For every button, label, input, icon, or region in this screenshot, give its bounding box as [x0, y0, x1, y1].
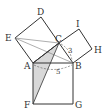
label-h: H	[94, 45, 102, 55]
label-d: D	[37, 7, 44, 17]
measure-bc: 3	[68, 47, 72, 55]
label-f: F	[24, 100, 30, 110]
square-bcih	[59, 29, 92, 63]
label-c: C	[55, 34, 62, 44]
label-e: E	[5, 33, 12, 43]
label-b: B	[75, 61, 82, 71]
geometry-figure: D E C I H A B F G 3 5	[0, 0, 110, 111]
label-i: I	[76, 19, 80, 29]
label-a: A	[23, 61, 31, 71]
measure-ab: 5	[56, 68, 60, 76]
label-g: G	[75, 100, 82, 110]
line-ec	[15, 38, 59, 43]
